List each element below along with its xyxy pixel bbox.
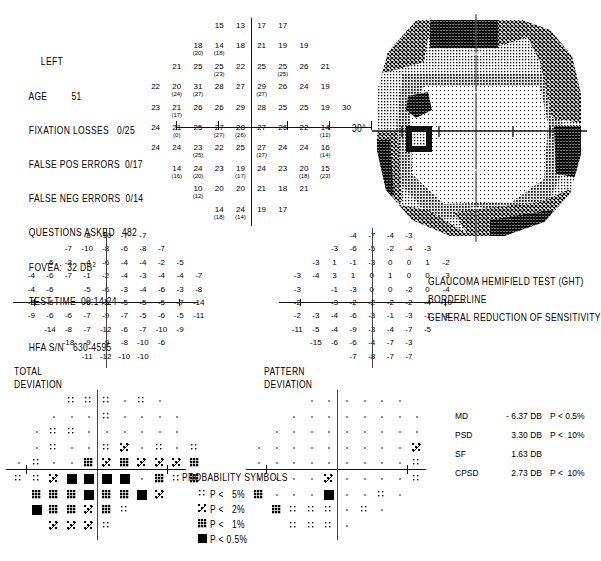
total-deviation-cell: -8 (78, 232, 97, 240)
pattern-deviation-symbol (360, 412, 370, 422)
threshold-cell: 26 (272, 83, 293, 91)
threshold-cell: 16(14) (315, 144, 336, 158)
threshold-cell: 30 (336, 104, 357, 112)
pattern-deviation-label-line1: PATTERN (264, 366, 312, 378)
pattern-deviation-symbol (289, 474, 299, 484)
threshold-value: 26 (293, 63, 314, 71)
total-deviation-cell: -9 (22, 312, 41, 320)
total-deviation-symbol (120, 396, 130, 406)
probability-map-horizontal-axis (246, 469, 426, 470)
threshold-cell: 19(17) (230, 165, 251, 179)
total-deviation-cell: -4 (78, 259, 97, 267)
total-deviation-cell: -7 (134, 326, 153, 334)
probability-legend-icon (198, 504, 207, 513)
ght-title: GLAUCOMA HEMIFIELD TEST (GHT) (428, 276, 601, 288)
total-deviation-symbol (155, 458, 165, 468)
pattern-deviation-symbol (342, 396, 352, 406)
total-deviation-symbol (49, 505, 59, 515)
total-deviation-symbol (137, 458, 147, 468)
pattern-deviation-cell: -3 (288, 286, 307, 294)
pattern-deviation-cell: 1 (325, 259, 344, 267)
pattern-deviation-cell: -11 (288, 326, 307, 334)
threshold-value: 23 (209, 165, 230, 173)
threshold-cell: 24 (145, 144, 166, 152)
pattern-deviation-symbol (289, 505, 299, 515)
threshold-retest-value: (14) (315, 152, 336, 158)
total-deviation-cell: -6 (59, 312, 78, 320)
threshold-cell: 19 (251, 206, 272, 214)
pattern-deviation-symbol (412, 412, 422, 422)
threshold-cell: 29(27) (251, 83, 272, 97)
pattern-deviation-cell: -6 (344, 245, 363, 253)
pattern-deviation-cell: -2 (400, 299, 419, 307)
total-deviation-cell: -14 (41, 326, 60, 334)
threshold-value: 24 (166, 144, 187, 152)
pattern-deviation-cell: -4 (381, 232, 400, 240)
threshold-retest-value: (27) (251, 91, 272, 97)
pattern-deviation-symbol (307, 427, 317, 437)
threshold-vertical-axis (251, 18, 252, 226)
threshold-retest-value: (27) (209, 132, 230, 138)
total-deviation-symbol (84, 443, 94, 453)
threshold-cell: 21(17) (166, 104, 187, 118)
threshold-value: 13 (230, 22, 251, 30)
probability-legend-row: P < 2% (198, 503, 288, 514)
probability-legend-icon (198, 534, 207, 543)
threshold-retest-value: (23) (209, 71, 230, 77)
pattern-deviation-symbol (360, 427, 370, 437)
probability-symbols-title: PROBABILITY SYMBOLS (182, 472, 288, 484)
total-deviation-cell: -5 (171, 312, 190, 320)
pattern-deviation-cell: -5 (418, 326, 437, 334)
pattern-deviation-symbol (377, 427, 387, 437)
total-deviation-cell: -5 (152, 299, 171, 307)
threshold-value: 27 (209, 124, 230, 132)
index-name: CPSD (455, 467, 488, 479)
axis-tick (300, 299, 301, 306)
threshold-cell: 26 (187, 104, 208, 112)
pattern-deviation-cell: -6 (325, 339, 344, 347)
pattern-deviation-symbol (272, 427, 282, 437)
pattern-deviation-symbol (289, 443, 299, 453)
threshold-value: 25 (209, 63, 230, 71)
total-deviation-symbol (32, 427, 42, 437)
total-deviation-cell: -14 (189, 299, 208, 307)
total-deviation-cell: -6 (41, 272, 60, 280)
total-deviation-symbol (49, 458, 59, 468)
threshold-cell: 21 (315, 63, 336, 71)
threshold-value: 24 (293, 144, 314, 152)
probability-legend-icon (198, 489, 207, 498)
threshold-cell: 17 (272, 206, 293, 214)
pattern-deviation-symbol (395, 458, 405, 468)
pattern-deviation-cell: 0 (400, 272, 419, 280)
threshold-cell: 28 (251, 104, 272, 112)
total-deviation-cell: -3 (59, 259, 78, 267)
threshold-value: 23 (145, 104, 166, 112)
total-deviation-label: TOTAL DEVIATION (14, 366, 62, 389)
total-deviation-symbol (84, 458, 94, 468)
threshold-cell: 25 (272, 104, 293, 112)
axis-tick (372, 299, 373, 306)
threshold-value: 19 (272, 42, 293, 50)
threshold-value: 22 (293, 124, 314, 132)
total-deviation-symbol (67, 396, 77, 406)
threshold-value: 24 (145, 124, 166, 132)
threshold-cell: 24 (145, 124, 166, 132)
threshold-value: 25 (187, 124, 208, 132)
threshold-value: 26 (272, 124, 293, 132)
threshold-cell: 27 (230, 83, 251, 91)
total-deviation-cell: -4 (22, 272, 41, 280)
threshold-cell: 24 (293, 144, 314, 152)
threshold-value: 14 (166, 165, 187, 173)
total-deviation-symbol (14, 458, 24, 468)
pattern-deviation-symbol (360, 443, 370, 453)
total-deviation-symbol (120, 412, 130, 422)
total-deviation-symbol (155, 427, 165, 437)
probability-legend-label: P < 1% (210, 519, 245, 531)
total-deviation-symbol (84, 427, 94, 437)
pattern-deviation-symbol (324, 458, 334, 468)
pattern-deviation-cell: -3 (418, 245, 437, 253)
global-index-row: SF1.63 DB (455, 448, 590, 460)
index-value: 2.73 DB (488, 467, 542, 479)
total-deviation-cell: -6 (78, 299, 97, 307)
pattern-deviation-cell: 0 (400, 259, 419, 267)
